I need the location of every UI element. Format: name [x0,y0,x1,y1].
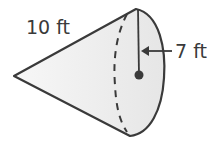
radius-line [138,9,139,75]
radius-label: 7 ft [175,40,207,62]
slant-height-label: 10 ft [26,16,70,38]
center-point [135,71,144,80]
cone-figure: 7 ft 10 ft [0,0,223,146]
cone-diagram: 7 ft 10 ft [0,0,223,146]
